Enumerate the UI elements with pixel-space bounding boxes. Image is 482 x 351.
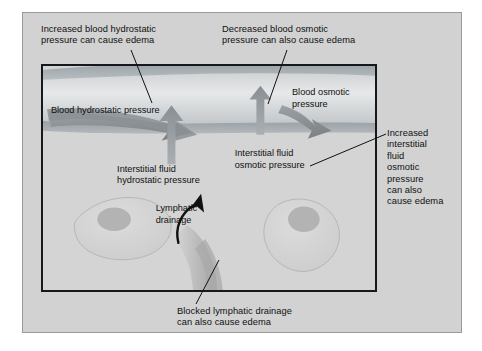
callout-blocked-lymphatic-drainage: Blocked lymphatic drainage can also caus… [177, 306, 377, 329]
callout-decreased-blood-osmotic-pressure: Decreased blood osmotic pressure can als… [222, 24, 412, 47]
callout-increased-interstitial-fluid-osmotic-pressure: Increased interstitial fluid osmotic pre… [387, 128, 461, 208]
nucleus-icon [288, 206, 320, 232]
figure-root: Blood hydrostatic pressure Blood osmotic… [0, 0, 482, 351]
label-interstitial-hydrostatic-line1: Interstitial fluid [117, 164, 176, 174]
label-lymphatic-drainage-line1: Lymphatic [156, 203, 198, 213]
label-interstitial-hydrostatic-line2: hydrostatic pressure [117, 175, 200, 185]
nucleus-icon [97, 207, 131, 231]
label-interstitial-osmotic-line1: Interstitial fluid [235, 148, 294, 158]
label-blood-hydrostatic-pressure: Blood hydrostatic pressure [51, 105, 160, 115]
label-blood-osmotic-pressure-line2: pressure [292, 99, 328, 109]
illustration-canvas: Blood hydrostatic pressure Blood osmotic… [43, 66, 375, 290]
illustration-frame: Blood hydrostatic pressure Blood osmotic… [41, 64, 377, 292]
label-interstitial-osmotic-line2: osmotic pressure [235, 160, 305, 170]
callout-increased-blood-hydrostatic-pressure: Increased blood hydrostatic pressure can… [41, 24, 216, 47]
label-blood-osmotic-pressure-line1: Blood osmotic [292, 87, 350, 97]
label-lymphatic-drainage-line2: drainage [156, 215, 192, 225]
